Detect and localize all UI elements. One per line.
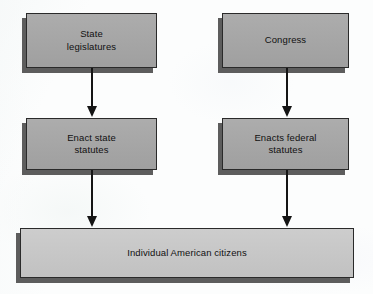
- node-individual-american-citizens[interactable]: Individual American citizens: [20, 228, 354, 278]
- arrow-shaft: [91, 170, 93, 216]
- arrow-federal-statutes-to-citizens: [282, 170, 292, 227]
- node-label-congress: Congress: [261, 34, 310, 47]
- arrow-head-icon: [282, 216, 292, 227]
- node-label-enact-state-statutes: Enact state statutes: [63, 132, 120, 157]
- arrow-state-to-statutes: [87, 68, 97, 117]
- node-enacts-federal-statutes[interactable]: Enacts federal statutes: [222, 118, 349, 170]
- arrow-congress-to-federal: [282, 68, 292, 117]
- flowchart-diagram: State legislatures Congress Enact state …: [0, 0, 373, 294]
- arrow-shaft: [286, 170, 288, 216]
- arrow-shaft: [286, 68, 288, 106]
- arrow-shaft: [91, 68, 93, 106]
- arrow-head-icon: [282, 106, 292, 117]
- node-label-state-legislatures: State legislatures: [63, 28, 120, 53]
- arrow-state-statutes-to-citizens: [87, 170, 97, 227]
- node-label-individual-american-citizens: Individual American citizens: [123, 247, 251, 260]
- arrow-head-icon: [87, 106, 97, 117]
- node-state-legislatures[interactable]: State legislatures: [26, 13, 157, 68]
- node-enact-state-statutes[interactable]: Enact state statutes: [26, 118, 157, 170]
- arrow-head-icon: [87, 216, 97, 227]
- node-label-enacts-federal-statutes: Enacts federal statutes: [250, 132, 320, 157]
- node-congress[interactable]: Congress: [222, 13, 349, 68]
